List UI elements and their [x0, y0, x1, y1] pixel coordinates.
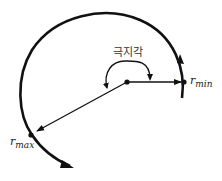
orbit-end-arrow-icon: [60, 160, 74, 168]
polar-angle-label: 극지각: [113, 46, 143, 59]
focus-point: [124, 79, 129, 84]
r-max-point: [28, 132, 33, 137]
polar-angle-arrow-icon: [147, 74, 153, 81]
r-max-vector: [37, 82, 127, 131]
orbit-path: [20, 13, 182, 166]
r-min-label: rmin: [190, 74, 213, 89]
orbit-diagram: 극지각 rmin rmax: [0, 0, 222, 181]
r-min-point: [181, 79, 186, 84]
